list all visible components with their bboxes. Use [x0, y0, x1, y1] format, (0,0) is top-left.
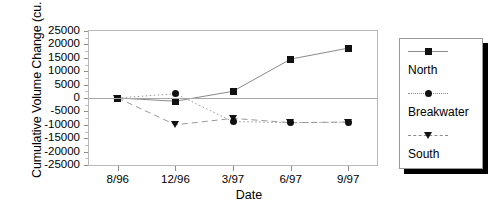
x-axis-title: Date [0, 188, 498, 202]
zero-reference-line [89, 98, 377, 99]
x-axis-title-text: Date [236, 188, 262, 202]
legend-marker-sample [424, 132, 432, 139]
y-axis-tick-label: -25000 [44, 159, 80, 171]
y-axis-tick-label: -20000 [44, 146, 80, 158]
x-axis-tick-label: 6/97 [279, 173, 301, 185]
legend-swatch-south [408, 131, 448, 140]
chart-legend: NorthBreakwaterSouth [399, 38, 483, 169]
x-axis-tick-label: 3/97 [222, 173, 244, 185]
data-point-marker [287, 56, 294, 63]
y-axis-tick-labels: 2500020000150001000050000-5000-10000-150… [28, 24, 80, 166]
legend-marker-sample [425, 48, 432, 55]
y-axis-tick-label: 10000 [48, 65, 80, 77]
y-axis-tick-label: 15000 [48, 52, 80, 64]
plot-area [88, 30, 378, 166]
y-axis-tick-label: 5000 [54, 79, 80, 91]
legend-label-breakwater: Breakwater [408, 105, 469, 119]
legend-marker-sample [425, 90, 432, 97]
y-axis-tick-label: -10000 [44, 119, 80, 131]
data-point-marker [171, 121, 179, 128]
x-axis-tick-label: 8/96 [107, 173, 129, 185]
legend-swatch-breakwater [408, 89, 448, 98]
x-axis-tick-label: 12/96 [161, 173, 190, 185]
data-point-marker [345, 45, 352, 52]
data-point-marker [344, 119, 352, 126]
data-point-marker [286, 119, 294, 126]
legend-label-south: South [408, 147, 439, 161]
y-axis-tick-label: 25000 [48, 25, 80, 37]
legend-label-north: North [408, 63, 437, 77]
y-axis-tick-label: -15000 [44, 132, 80, 144]
y-axis-tick-label: 20000 [48, 39, 80, 51]
data-point-marker [229, 115, 237, 122]
y-axis-tick-label: 0 [74, 92, 80, 104]
chart-figure: Cumulative Volume Change (cu. m.) 250002… [0, 0, 498, 220]
y-axis-tick-label: -5000 [51, 106, 80, 118]
x-axis-tick-label: 9/97 [337, 173, 359, 185]
data-point-marker [230, 88, 237, 95]
legend-swatch-north [408, 47, 448, 56]
